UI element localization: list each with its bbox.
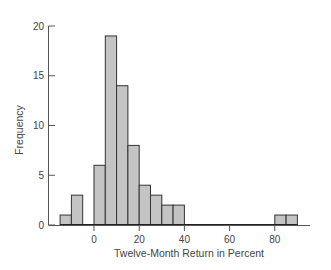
x-axis-label: Twelve-Month Return in Percent bbox=[114, 247, 264, 259]
x-tick-label: 80 bbox=[269, 234, 281, 245]
histogram-bar bbox=[162, 205, 173, 225]
y-tick-label: 5 bbox=[38, 170, 44, 181]
x-tick-label: 0 bbox=[91, 234, 97, 245]
histogram-bar bbox=[139, 185, 150, 225]
histogram-bar bbox=[71, 195, 82, 225]
histogram-bar bbox=[286, 215, 297, 225]
y-tick-label: 10 bbox=[33, 120, 45, 131]
histogram-bar bbox=[151, 195, 162, 225]
histogram-bar bbox=[60, 215, 71, 225]
histogram-bar bbox=[128, 145, 139, 225]
x-tick-label: 40 bbox=[179, 234, 191, 245]
x-tick-label: 20 bbox=[134, 234, 146, 245]
y-tick-label: 20 bbox=[33, 21, 45, 32]
histogram-bar bbox=[105, 36, 116, 225]
histogram-chart: 05101520 020406080 Frequency Twelve-Mont… bbox=[0, 0, 331, 270]
x-axis: 020406080 bbox=[49, 225, 311, 245]
histogram-bars bbox=[60, 36, 297, 225]
histogram-bar bbox=[117, 86, 128, 225]
y-tick-label: 0 bbox=[38, 220, 44, 231]
x-tick-label: 60 bbox=[224, 234, 236, 245]
y-axis-label: Frequency bbox=[13, 104, 25, 154]
y-axis: 05101520 bbox=[33, 21, 55, 231]
histogram-bar bbox=[275, 215, 286, 225]
histogram-bar bbox=[173, 205, 184, 225]
histogram-bar bbox=[94, 165, 105, 225]
y-tick-label: 15 bbox=[33, 70, 45, 81]
